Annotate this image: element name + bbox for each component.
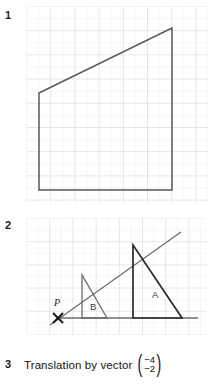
question-number-1: 1	[5, 10, 11, 21]
label-triangle-a: A	[152, 289, 159, 300]
question-number-2: 2	[5, 220, 11, 231]
figure-2-grid: P B A	[26, 218, 212, 336]
figure-2-gridlines	[27, 219, 207, 335]
column-vector: ( −4 −2 )	[136, 355, 163, 374]
vector-y-component: −2	[144, 364, 155, 374]
figure-1-gridlines	[27, 7, 209, 203]
vector-components: −4 −2	[144, 355, 155, 374]
figure-1-grid	[26, 6, 212, 208]
question-number-3: 3	[5, 359, 11, 370]
item-3-translation-text: Translation by vector ( −4 −2 )	[24, 355, 163, 374]
label-p: P	[53, 297, 60, 308]
translation-label: Translation by vector	[24, 359, 132, 371]
label-triangle-b: B	[90, 301, 96, 312]
